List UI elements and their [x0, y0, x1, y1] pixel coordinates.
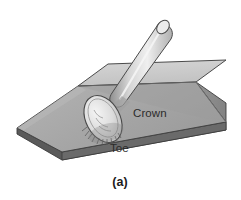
label-toe: Toe	[110, 142, 129, 154]
weld-toe-crown-illustration: Crown Toe (a)	[0, 0, 241, 200]
figure-caption: (a)	[112, 175, 127, 189]
figure-container: Crown Toe (a)	[0, 0, 241, 200]
label-crown: Crown	[133, 107, 167, 119]
